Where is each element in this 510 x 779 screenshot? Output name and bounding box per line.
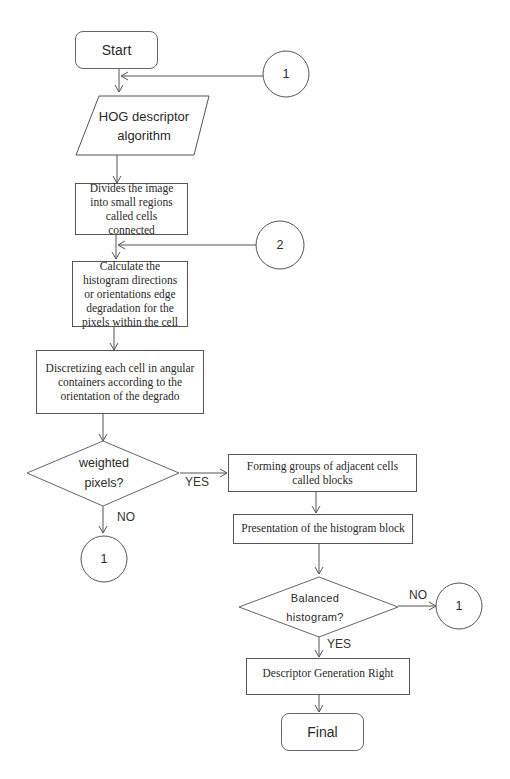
connector-1-right-label: 1 [456,598,463,614]
hog-descriptor-node: HOG descriptor algorithm [95,100,193,152]
flowchart-canvas: Start HOG descriptor algorithm Divides t… [0,0,510,779]
final-label: Final [307,724,337,740]
weighted-pixels-decision: weighted pixels? [60,452,148,494]
connector-1-top: 1 [270,64,302,84]
connector-1-left-label: 1 [101,551,108,567]
calc-label: Calculate the histogram directions or or… [79,259,181,329]
connector-2: 2 [264,235,296,255]
start-terminal: Start [75,31,158,69]
connector-1-top-label: 1 [283,66,290,82]
weighted-yes-label: YES [185,475,209,489]
calculate-histogram-node: Calculate the histogram directions or or… [72,261,188,327]
balanced-histogram-decision: Balanced histogram? [275,588,355,628]
discretize-node: Discretizing each cell in angular contai… [36,350,204,414]
final-terminal: Final [281,713,364,751]
presentation-label: Presentation of the histogram block [241,521,405,535]
connector-2-label: 2 [277,237,284,253]
start-label: Start [102,42,132,58]
divide-cells-node: Divides the image into small regions cal… [75,183,188,235]
descriptor-generation-node: Descriptor Generation Right [246,658,410,695]
balanced-no-label: NO [409,588,427,602]
divide-label: Divides the image into small regions cal… [82,181,181,237]
discretize-label: Discretizing each cell in angular contai… [43,361,197,403]
balanced-yes-label: YES [327,637,351,651]
forming-blocks-node: Forming groups of adjacent cells called … [228,454,417,492]
hog-label: HOG descriptor algorithm [99,107,189,145]
presentation-node: Presentation of the histogram block [233,514,413,544]
forming-label: Forming groups of adjacent cells called … [235,459,410,487]
descriptor-label: Descriptor Generation Right [263,666,394,680]
connector-1-right: 1 [443,596,475,616]
connector-1-left: 1 [88,549,120,569]
weighted-label: weighted pixels? [79,453,129,493]
balanced-label: Balanced histogram? [286,589,343,627]
weighted-no-label: NO [117,510,135,524]
